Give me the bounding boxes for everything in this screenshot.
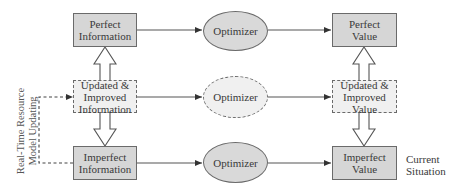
current-situation-label: Current Situation <box>406 153 446 177</box>
optimizer-ellipse-bottom: Optimizer <box>203 142 268 183</box>
imperfect-value-box: Imperfect Value <box>332 146 397 180</box>
updated-improved-value-box: Updated & Improved Value <box>332 80 397 113</box>
dashed-feedback-loop <box>39 97 73 163</box>
optimizer-ellipse-top: Optimizer <box>203 11 268 51</box>
block-arrow-down-left <box>94 113 116 146</box>
perfect-value-box: Perfect Value <box>332 13 397 47</box>
block-arrow-up-left <box>94 47 116 80</box>
updated-improved-information-box: Updated & Improved Information <box>73 80 137 113</box>
block-arrow-down-right <box>353 113 375 146</box>
real-time-resource-model-updating-label: Real-Time Resource Model Updating <box>15 81 41 181</box>
block-arrow-up-right <box>353 47 375 80</box>
perfect-information-box: Perfect Information <box>73 13 137 47</box>
imperfect-information-box: Imperfect Information <box>73 146 137 180</box>
optimizer-ellipse-middle: Optimizer <box>203 76 268 118</box>
